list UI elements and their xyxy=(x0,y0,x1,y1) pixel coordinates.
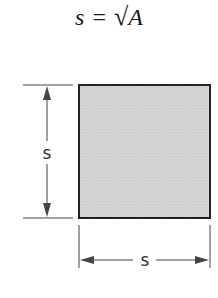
arrow-left-icon xyxy=(80,256,94,264)
arrow-down-icon xyxy=(43,203,51,217)
arrow-up-icon xyxy=(43,86,51,100)
horizontal-dimension-label: s xyxy=(141,250,150,270)
arrow-right-icon xyxy=(195,256,209,264)
square-diagram: s s xyxy=(0,0,218,298)
square xyxy=(79,85,210,218)
vertical-dimension-label: s xyxy=(43,143,52,163)
